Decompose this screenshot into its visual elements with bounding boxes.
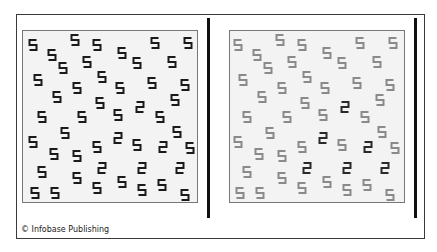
digit-five-glyph-right — [279, 151, 286, 161]
digit-five-glyph-left — [182, 190, 189, 200]
digit-five-glyph-left — [32, 188, 39, 198]
digit-five-glyph-right — [265, 63, 272, 73]
digit-five-glyph-right — [304, 72, 311, 82]
digit-five-glyph-right — [299, 40, 306, 50]
digit-five-glyph-right — [299, 183, 306, 193]
digit-five-glyph-right — [240, 75, 247, 85]
digit-two-glyph-left — [137, 102, 144, 112]
digit-five-glyph-right — [259, 92, 266, 102]
digit-five-glyph-left — [39, 112, 46, 122]
digit-five-glyph-left — [134, 58, 141, 68]
digit-five-glyph-left — [115, 110, 122, 120]
digit-five-glyph-right — [244, 112, 251, 122]
digit-two-glyph-left — [160, 142, 167, 152]
digit-five-glyph-right — [244, 167, 251, 177]
digit-five-glyph-left — [159, 180, 166, 190]
digit-five-glyph-right — [324, 48, 331, 58]
digit-five-glyph-left — [185, 38, 192, 48]
digit-five-glyph-right — [374, 57, 381, 67]
digit-five-glyph-left — [62, 128, 69, 138]
digit-five-glyph-right — [324, 177, 331, 187]
digit-five-glyph-right — [257, 188, 264, 198]
digit-five-glyph-right — [277, 35, 284, 45]
digit-five-glyph-right — [279, 173, 286, 183]
digit-five-glyph-left — [117, 83, 124, 93]
digit-five-glyph-right — [256, 149, 263, 159]
digit-five-glyph-left — [60, 63, 67, 73]
digit-five-glyph-left — [72, 35, 79, 45]
digit-five-glyph-right — [379, 127, 386, 137]
digit-five-glyph-right — [284, 112, 291, 122]
digit-five-glyph-left — [119, 48, 126, 58]
digit-five-glyph-left — [74, 151, 81, 161]
digit-five-glyph-left — [39, 167, 46, 177]
digit-five-glyph-left — [182, 80, 189, 90]
digit-two-glyph-left — [99, 163, 106, 173]
digit-five-glyph-left — [134, 140, 141, 150]
digit-five-glyph-left — [157, 112, 164, 122]
digit-five-glyph-left — [52, 188, 59, 198]
digit-two-glyph-left — [115, 133, 122, 143]
digit-five-glyph-right — [387, 190, 394, 200]
digit-five-glyph-right — [237, 188, 244, 198]
digit-two-glyph-right — [365, 142, 372, 152]
digit-two-glyph-right — [382, 163, 389, 173]
digit-five-glyph-left — [74, 83, 81, 93]
digit-five-glyph-left — [97, 98, 104, 108]
digit-five-glyph-right — [344, 185, 351, 195]
digit-five-glyph-left — [187, 143, 194, 153]
digit-five-glyph-left — [84, 57, 91, 67]
digit-five-glyph-right — [357, 38, 364, 48]
digit-five-glyph-left — [139, 185, 146, 195]
digit-two-glyph-left — [139, 163, 146, 173]
digit-five-glyph-right — [390, 38, 397, 48]
digit-five-glyph-left — [79, 112, 86, 122]
digit-five-glyph-left — [49, 50, 56, 60]
digit-five-glyph-left — [169, 57, 176, 67]
digit-two-glyph-right — [342, 102, 349, 112]
digit-five-glyph-left — [54, 92, 61, 102]
digit-five-glyph-right — [235, 40, 242, 50]
digit-five-glyph-left — [30, 40, 37, 50]
digit-five-glyph-left — [74, 173, 81, 183]
digit-five-glyph-right — [364, 180, 371, 190]
digit-two-glyph-right — [344, 163, 351, 173]
digit-five-glyph-right — [267, 128, 274, 138]
digit-five-glyph-left — [30, 137, 37, 147]
digit-five-glyph-right — [320, 110, 327, 120]
digit-five-glyph-right — [362, 112, 369, 122]
digit-two-glyph-right — [320, 133, 327, 143]
digit-five-glyph-right — [299, 142, 306, 152]
digit-five-glyph-right — [322, 83, 329, 93]
copyright-credit: © Infobase Publishing — [21, 225, 109, 234]
digit-five-glyph-left — [35, 75, 42, 85]
digit-five-glyph-left — [94, 183, 101, 193]
digit-five-glyph-right — [254, 50, 261, 60]
digit-five-glyph-right — [279, 83, 286, 93]
digit-five-glyph-right — [377, 95, 384, 105]
digit-five-glyph-right — [339, 58, 346, 68]
digit-five-glyph-right — [392, 143, 399, 153]
digit-five-glyph-left — [94, 142, 101, 152]
digit-five-glyph-right — [339, 140, 346, 150]
digit-two-glyph-left — [177, 163, 184, 173]
digit-five-glyph-left — [94, 40, 101, 50]
digit-five-glyph-left — [119, 177, 126, 187]
digit-five-glyph-left — [174, 127, 181, 137]
digit-five-glyph-right — [354, 78, 361, 88]
digit-two-glyph-right — [304, 163, 311, 173]
digit-five-glyph-left — [152, 38, 159, 48]
digit-five-glyph-right — [302, 98, 309, 108]
digit-five-glyph-right — [289, 57, 296, 67]
digit-five-glyph-left — [99, 72, 106, 82]
digit-five-glyph-right — [387, 80, 394, 90]
digit-five-glyph-left — [149, 78, 156, 88]
digit-five-glyph-left — [51, 149, 58, 159]
digit-five-glyph-right — [235, 137, 242, 147]
glyph-layer — [0, 0, 437, 252]
digit-five-glyph-left — [172, 95, 179, 105]
